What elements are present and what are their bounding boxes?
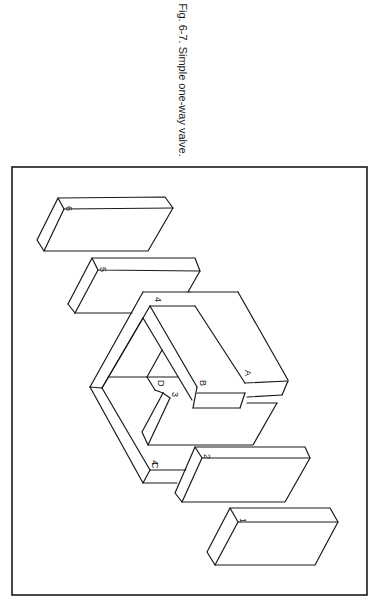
- part-3: 3: [142, 392, 277, 445]
- label-4: 4: [153, 297, 163, 302]
- label-1: 1: [238, 518, 248, 523]
- label-2: 2: [202, 454, 212, 459]
- part-4-frame: 4: [90, 292, 195, 483]
- label-b: B: [198, 380, 208, 386]
- part-2: 2: [175, 447, 310, 502]
- diagram-frame: [12, 167, 367, 595]
- label-d: D: [156, 380, 166, 387]
- valve-diagram: 6 5 4: [0, 0, 382, 614]
- label-6: 6: [64, 206, 74, 211]
- label-5: 5: [98, 267, 108, 272]
- frame-interior: D: [108, 350, 178, 393]
- figure-caption: Fig. 6-7. Simple one-way valve.: [177, 3, 189, 156]
- label-3: 3: [170, 392, 180, 397]
- label-c: C: [150, 462, 160, 469]
- part-5: 5: [68, 258, 200, 313]
- part-1: 1: [207, 508, 338, 565]
- label-a: A: [243, 370, 253, 376]
- figure: Fig. 6-7. Simple one-way valve. 6 5: [0, 0, 382, 614]
- part-6: 6: [37, 197, 173, 251]
